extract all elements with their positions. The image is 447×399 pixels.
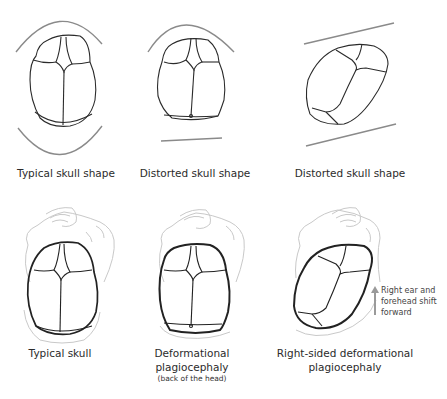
typical-skull-drawing (28, 242, 98, 334)
label-distorted-skull-shape-1: Distorted skull shape (135, 166, 255, 180)
right-sided-plagiocephaly-drawing (294, 245, 372, 329)
label-right-sided-plagiocephaly: Right-sided deformational plagiocephaly (270, 346, 420, 374)
label-deformational-line2: plagiocephaly (140, 360, 244, 374)
label-deformational-sublabel: (back of the head) (140, 374, 244, 384)
label-deformational-line1: Deformational (140, 346, 244, 360)
annotation-line2: forehead shift (381, 296, 437, 307)
annotation-line3: forward (381, 307, 437, 318)
typical-skull-shape-drawing (16, 21, 102, 154)
up-arrow-icon (371, 286, 379, 315)
deformational-plagiocephaly-drawing (160, 244, 230, 333)
label-deformational-plagiocephaly: Deformational plagiocephaly (back of the… (140, 346, 244, 384)
typical-skull-body-outline (24, 208, 114, 343)
deformational-body-outline (159, 210, 244, 339)
label-typical-skull-shape: Typical skull shape (6, 166, 126, 180)
right-sided-body-outline (296, 208, 381, 336)
annotation-line1: Right ear and (381, 285, 437, 296)
distorted-skull-shape-drawing-2 (304, 23, 396, 146)
skull-diagram-art (0, 0, 447, 399)
label-distorted-skull-shape-2: Distorted skull shape (285, 166, 415, 180)
annotation-text: Right ear and forehead shift forward (381, 285, 437, 318)
label-typical-skull: Typical skull (10, 346, 110, 360)
label-right-sided-line2: plagiocephaly (270, 360, 420, 374)
distorted-skull-shape-drawing-1 (148, 25, 234, 141)
label-right-sided-line1: Right-sided deformational (270, 346, 420, 360)
